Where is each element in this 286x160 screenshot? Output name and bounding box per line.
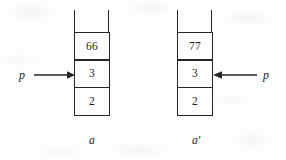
stack-left-cell-bottom-value: 2	[89, 95, 95, 107]
stack-right-cell-bottom-value: 2	[192, 95, 198, 107]
stack-left-cell-top: 66	[74, 32, 110, 61]
stack-right-cell-middle-value: 3	[192, 68, 198, 80]
stack-right: 77 3 2	[177, 10, 213, 118]
pointer-label-left: p	[19, 69, 25, 81]
stack-right-rail-right	[211, 10, 212, 33]
stack-left-rail-right	[108, 10, 109, 33]
stack-left-cell-middle: 3	[74, 59, 110, 88]
pointer-label-right: p	[263, 69, 269, 81]
stack-right-rail-left	[177, 10, 178, 33]
paper-grain	[0, 0, 286, 160]
stack-right-cell-middle: 3	[177, 59, 213, 88]
pointer-arrow-right	[213, 70, 257, 80]
stack-right-cell-bottom: 2	[177, 87, 213, 116]
stack-right-cell-top-value: 77	[189, 40, 201, 52]
stack-left-cell-middle-value: 3	[89, 68, 95, 80]
stack-left-rail-left	[74, 10, 75, 33]
figure-canvas: 66 3 2 p a 77 3 2	[0, 0, 286, 160]
stack-left-cell-bottom: 2	[74, 87, 110, 116]
stack-right-cell-top: 77	[177, 32, 213, 61]
figure-caption-right: a′	[192, 135, 200, 147]
pointer-arrow-left	[34, 70, 76, 80]
stack-left-cell-top-value: 66	[86, 40, 98, 52]
stack-left: 66 3 2	[74, 10, 110, 118]
figure-caption-left: a	[89, 135, 95, 147]
